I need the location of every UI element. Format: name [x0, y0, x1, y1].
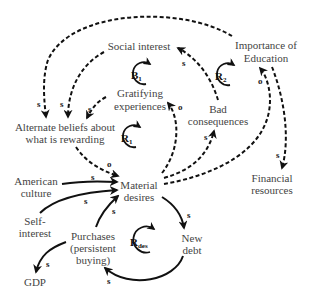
svg-text:o: o: [107, 159, 112, 169]
node-material-desires: Material desires: [120, 179, 157, 203]
loop-r2: R2: [215, 63, 234, 85]
svg-text:s: s: [182, 58, 186, 68]
svg-text:debt: debt: [183, 244, 202, 256]
svg-text:Bad: Bad: [209, 103, 227, 115]
svg-text:s: s: [187, 210, 191, 220]
link-newdebt-to-purchases: [105, 256, 183, 280]
svg-text:New: New: [182, 232, 203, 244]
svg-text:s: s: [91, 172, 95, 182]
svg-text:American: American: [14, 175, 58, 187]
link-material-to-gratifying: [162, 103, 176, 173]
svg-text:interest: interest: [19, 227, 51, 239]
node-purchases: Purchases (persistent buying): [70, 230, 116, 267]
svg-text:Rdes: Rdes: [130, 236, 148, 250]
node-importance-of-education: Importance of Education: [235, 39, 297, 64]
loop-r1: R1: [121, 125, 140, 147]
svg-text:Gratifying: Gratifying: [117, 87, 163, 99]
link-purchases-to-gdp: [36, 242, 66, 272]
node-financial-resources: Financial resources: [251, 172, 293, 196]
svg-text:Financial: Financial: [252, 172, 293, 184]
svg-text:s: s: [46, 259, 50, 269]
svg-text:Importance of: Importance of: [235, 39, 297, 51]
svg-text:Alternate beliefs about: Alternate beliefs about: [15, 121, 115, 133]
link-material-to-newdebt: [162, 197, 184, 228]
svg-text:Purchases: Purchases: [71, 230, 115, 242]
svg-text:Self-: Self-: [24, 215, 46, 227]
node-alternate-beliefs: Alternate beliefs about what is rewardin…: [15, 121, 115, 145]
loop-rdes: Rdes: [130, 227, 154, 253]
svg-text:Material: Material: [120, 179, 157, 191]
link-bad-to-social: [178, 48, 218, 100]
svg-text:s: s: [37, 99, 41, 109]
node-bad-consequences: Bad consequences: [188, 103, 248, 127]
svg-text:culture: culture: [21, 187, 52, 199]
svg-text:R2: R2: [215, 70, 227, 84]
svg-text:R1: R1: [121, 132, 133, 146]
svg-text:buying): buying): [76, 254, 111, 267]
node-self-interest: Self- interest: [19, 215, 51, 239]
svg-text:consequences: consequences: [188, 115, 248, 127]
svg-text:what is rewarding: what is rewarding: [26, 133, 105, 145]
svg-text:o: o: [258, 76, 263, 86]
node-new-debt: New debt: [182, 232, 203, 256]
svg-text:resources: resources: [251, 184, 293, 196]
svg-text:B1: B1: [131, 69, 142, 83]
svg-text:experiences: experiences: [114, 100, 166, 112]
node-american-culture: American culture: [14, 175, 58, 199]
node-gdp: GDP: [24, 276, 46, 288]
svg-text:s: s: [107, 276, 111, 286]
svg-text:s: s: [204, 132, 208, 142]
svg-text:s: s: [60, 99, 64, 109]
svg-text:s: s: [88, 104, 92, 114]
svg-text:o: o: [178, 102, 183, 112]
node-social-interest: Social interest: [108, 40, 171, 52]
svg-text:s: s: [112, 206, 116, 216]
causal-loop-diagram: B1 R2 R1 Rdes Social interest Importance…: [0, 0, 309, 300]
svg-text:s: s: [276, 150, 280, 160]
node-gratifying-experiences: Gratifying experiences: [114, 87, 166, 112]
svg-text:desires: desires: [124, 191, 155, 203]
svg-text:Education: Education: [244, 52, 289, 64]
link-alternate-to-material: [76, 147, 118, 176]
loop-b1: B1: [131, 62, 150, 84]
link-american-to-material: [62, 181, 117, 184]
svg-text:s: s: [84, 196, 88, 206]
link-social-to-alternate: [68, 52, 104, 117]
